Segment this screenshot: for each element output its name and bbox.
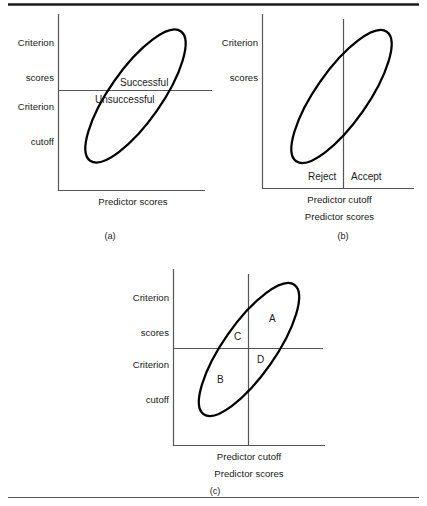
panel-a-region-unsuccessful: Unsuccessful bbox=[95, 94, 154, 105]
panel-c-region-c: C bbox=[234, 331, 241, 342]
panel-b-caption: (b) bbox=[313, 231, 373, 241]
panel-c-caption: (c) bbox=[185, 486, 245, 496]
panel-a-y-axis-label-line1: Criterion bbox=[0, 37, 54, 49]
panel-b-y-axis-label-line1: Criterion bbox=[206, 37, 258, 49]
panel-a-criterion-cutoff-label: Criterion cutoff bbox=[0, 78, 54, 170]
panel-b-region-reject: Reject bbox=[308, 171, 336, 182]
panel-a-x-axis-label: Predictor scores bbox=[58, 196, 208, 208]
panel-a-criterion-cutoff-label-line1: Criterion bbox=[0, 101, 54, 113]
panel-c-y-axis-label-line1: Criterion bbox=[115, 292, 169, 304]
panel-c-region-a: A bbox=[269, 313, 276, 324]
panel-a-region-successful: Successful bbox=[120, 77, 168, 88]
panel-c-criterion-cutoff-label-line2: cutoff bbox=[115, 394, 169, 406]
panel-a-criterion-cutoff-label-line2: cutoff bbox=[0, 136, 54, 148]
panel-c-criterion-cutoff-label-line1: Criterion bbox=[115, 359, 169, 371]
panel-c-region-b: B bbox=[217, 374, 224, 385]
panel-c-predictor-cutoff-label: Predictor cutoff bbox=[173, 451, 325, 463]
panel-a-caption: (a) bbox=[80, 231, 140, 241]
panel-b bbox=[262, 14, 414, 189]
panel-c-criterion-cutoff-label: Criterion cutoff bbox=[115, 336, 169, 428]
figure-container: Criterion scores Criterion cutoff Succes… bbox=[0, 0, 427, 506]
panel-b-predictor-cutoff-label: Predictor cutoff bbox=[262, 194, 417, 206]
panel-b-x-axis-label: Predictor scores bbox=[262, 211, 417, 223]
panel-c bbox=[173, 269, 325, 446]
panel-b-region-accept: Accept bbox=[351, 171, 382, 182]
panel-b-scatter-ellipse bbox=[275, 17, 408, 176]
panel-c-region-d: D bbox=[257, 354, 264, 365]
panel-b-y-axis-label: Criterion scores bbox=[206, 14, 258, 106]
panel-c-x-axis-label: Predictor scores bbox=[173, 468, 325, 480]
panel-b-y-axis-label-line2: scores bbox=[206, 72, 258, 84]
